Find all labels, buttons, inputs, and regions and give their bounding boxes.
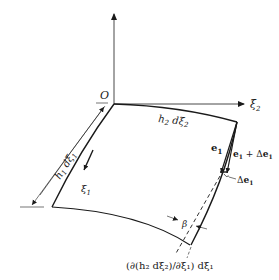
delta-e1-label: Δe1 <box>237 175 253 186</box>
bottom-formula: (∂(h₂ dξ₂)/∂ξ₁) dξ₁ <box>126 260 213 271</box>
left-dimension-line-top <box>40 107 104 195</box>
e1-label: e1 <box>211 142 222 156</box>
beta-label: β <box>181 219 187 229</box>
left-edge-label: h1 dξ1 <box>52 149 79 182</box>
origin-label: O <box>100 89 109 102</box>
delta-e1-leader <box>229 177 236 179</box>
dashed-projection-line <box>175 176 220 255</box>
top-edge-label: h2 dξ2 <box>158 113 190 129</box>
e1-plus-delta-label: e1 + Δe1 <box>233 149 273 160</box>
dashed-extension-right <box>187 247 191 258</box>
xi1-arrow <box>84 150 93 170</box>
surface-bottom-edge <box>52 207 190 245</box>
xi2-axis-label: ξ2 <box>250 98 261 113</box>
beta-dim-left <box>167 216 178 220</box>
beta-dim-right <box>196 226 207 229</box>
delta-e1-arc <box>224 174 229 177</box>
xi1-label: ξ1 <box>81 183 91 197</box>
surface-element-diagram: O ξ2 h2 dξ2 h1 dξ1 ξ1 e1 e1 + Δe1 Δe1 β … <box>0 0 279 280</box>
